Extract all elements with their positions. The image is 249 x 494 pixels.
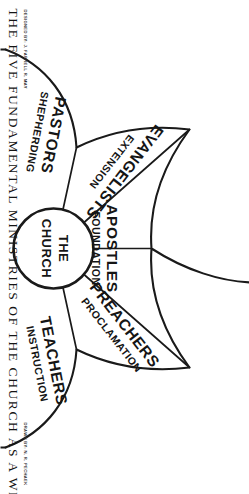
panel-subtitle-apostles: FOUNDATION <box>89 211 101 285</box>
rotated-page-stage: THE CHURCH APOSTLES FOUNDATION PREACHERS… <box>0 0 249 494</box>
page-caption: THE FIVE FUNDAMENTAL MINISTRIES OF THE C… <box>4 8 20 486</box>
panel-label-pastors: PASTORS SHEPHERDING <box>23 90 69 177</box>
panel-title-apostles: APOSTLES <box>103 204 120 292</box>
hub-line-1: THE <box>55 234 70 262</box>
umbrella-svg: THE CHURCH APOSTLES FOUNDATION PREACHERS… <box>0 0 249 494</box>
panel-label-teachers: TEACHERS INSTRUCTION <box>23 314 71 408</box>
diagram-page: THE CHURCH APOSTLES FOUNDATION PREACHERS… <box>0 0 249 494</box>
umbrella-diagram: THE CHURCH APOSTLES FOUNDATION PREACHERS… <box>0 0 249 494</box>
hub-line-2: CHURCH <box>38 218 53 277</box>
credit-drawn-by: DRAWN BY: N. R. PECHAEK <box>22 422 27 485</box>
credit-designed-by: DESIGNED BY: J. FARRELL R. MAY <box>22 9 27 88</box>
